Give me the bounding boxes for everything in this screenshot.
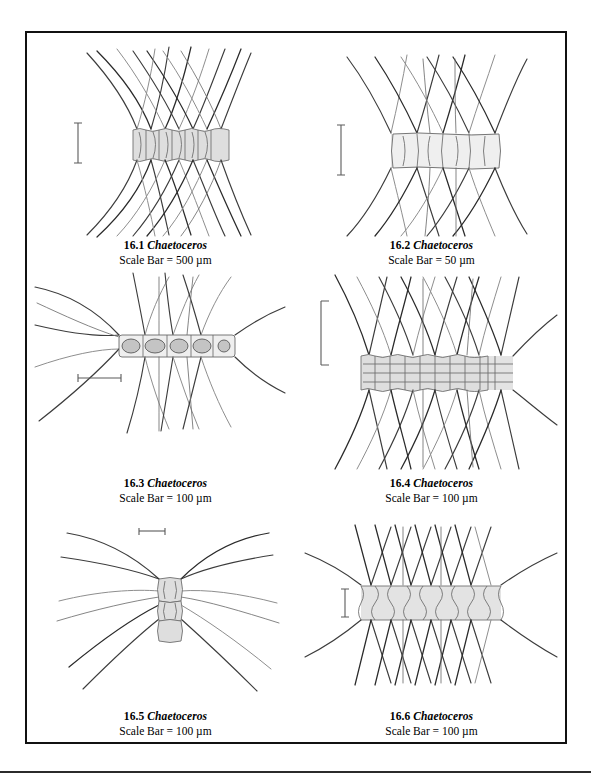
setae-upper-16-2: [347, 55, 527, 133]
setae-upper-16-1: [87, 47, 251, 129]
figure-grid: 16.1 Chaetoceros Scale Bar = 500 µm: [27, 33, 565, 742]
caption-title-16-2: 16.2 Chaetoceros: [299, 238, 564, 253]
figure-number-16-6: 16.6: [390, 710, 411, 722]
figure-illustration-16-5: [33, 509, 298, 704]
figure-genus-16-4: Chaetoceros: [413, 477, 473, 489]
figure-panel-16-1: 16.1 Chaetoceros Scale Bar = 500 µm: [33, 33, 298, 271]
figure-illustration-16-3: [33, 271, 298, 471]
setae-upper-16-4: [335, 275, 519, 355]
figure-caption-16-1: 16.1 Chaetoceros Scale Bar = 500 µm: [33, 238, 298, 267]
caption-title-16-3: 16.3 Chaetoceros: [33, 476, 298, 491]
caption-scale-16-3: Scale Bar = 100 µm: [33, 491, 298, 506]
caption-title-16-5: 16.5 Chaetoceros: [33, 709, 298, 724]
figure-genus-16-6: Chaetoceros: [413, 710, 473, 722]
caption-scale-16-4: Scale Bar = 100 µm: [299, 491, 564, 506]
setae-lower-16-2: [347, 168, 527, 236]
figure-panel-16-3: 16.3 Chaetoceros Scale Bar = 100 µm: [33, 271, 298, 509]
scale-bar-16-1: [74, 123, 82, 163]
scale-bar-16-5: [139, 528, 165, 535]
setae-upper-16-3: [133, 273, 231, 335]
scale-bar-16-6: [341, 589, 349, 617]
scale-bar-16-4: [321, 301, 329, 365]
figure-number-16-4: 16.4: [390, 477, 411, 489]
figure-panel-16-2: 16.2 Chaetoceros Scale Bar = 50 µm: [299, 33, 564, 271]
figure-caption-16-3: 16.3 Chaetoceros Scale Bar = 100 µm: [33, 476, 298, 505]
figure-caption-16-4: 16.4 Chaetoceros Scale Bar = 100 µm: [299, 476, 564, 505]
page-bottom-edge: [0, 771, 591, 773]
figure-number-16-5: 16.5: [124, 710, 145, 722]
caption-scale-16-2: Scale Bar = 50 µm: [299, 253, 564, 268]
figure-illustration-16-1: [33, 33, 298, 238]
caption-scale-16-1: Scale Bar = 500 µm: [33, 253, 298, 268]
cell-chain-16-1: [133, 129, 229, 162]
figure-number-16-3: 16.3: [124, 477, 145, 489]
figure-genus-16-2: Chaetoceros: [413, 239, 473, 251]
caption-scale-16-6: Scale Bar = 100 µm: [299, 724, 564, 739]
figure-caption-16-2: 16.2 Chaetoceros Scale Bar = 50 µm: [299, 238, 564, 267]
figure-number-16-1: 16.1: [124, 239, 145, 251]
figure-panel-16-4: 16.4 Chaetoceros Scale Bar = 100 µm: [299, 271, 564, 509]
caption-scale-16-5: Scale Bar = 100 µm: [33, 724, 298, 739]
cell-chain-16-4: [361, 355, 513, 392]
caption-title-16-6: 16.6 Chaetoceros: [299, 709, 564, 724]
cell-chain-16-6: [359, 586, 504, 620]
caption-title-16-4: 16.4 Chaetoceros: [299, 476, 564, 491]
figure-caption-16-6: 16.6 Chaetoceros Scale Bar = 100 µm: [299, 709, 564, 738]
setae-upper-16-6: [305, 525, 557, 585]
scale-bar-16-3: [78, 374, 121, 382]
figure-number-16-2: 16.2: [390, 239, 411, 251]
figure-illustration-16-6: [299, 509, 564, 704]
cell-chain-16-2: [391, 133, 501, 169]
scale-bar-16-2: [337, 125, 345, 175]
figure-genus-16-5: Chaetoceros: [147, 710, 207, 722]
cell-chain-16-3: [119, 335, 235, 357]
setae-lower-16-1: [87, 160, 251, 237]
terminal-setae-16-3: [35, 287, 119, 421]
figure-illustration-16-4: [299, 271, 564, 471]
setae-lower-16-6: [305, 620, 557, 685]
cell-chain-16-5: [158, 578, 183, 643]
figure-panel-16-6: 16.6 Chaetoceros Scale Bar = 100 µm: [299, 509, 564, 746]
setae-lower-16-3: [127, 307, 285, 433]
figure-panel-16-5: 16.5 Chaetoceros Scale Bar = 100 µm: [33, 509, 298, 746]
setae-lower-16-4: [335, 315, 557, 469]
figure-genus-16-1: Chaetoceros: [147, 239, 207, 251]
figure-genus-16-3: Chaetoceros: [147, 477, 207, 489]
plate-border: 16.1 Chaetoceros Scale Bar = 500 µm: [25, 31, 567, 744]
figure-caption-16-5: 16.5 Chaetoceros Scale Bar = 100 µm: [33, 709, 298, 738]
caption-title-16-1: 16.1 Chaetoceros: [33, 238, 298, 253]
figure-illustration-16-2: [299, 33, 564, 238]
